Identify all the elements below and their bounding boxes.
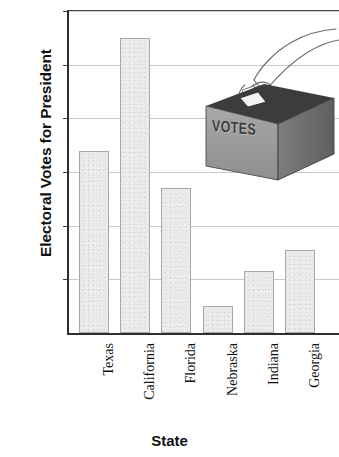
gridline: [69, 172, 339, 173]
x-axis-label-texas: Texas: [101, 343, 117, 435]
y-axis-tick: [63, 172, 69, 173]
x-axis-label-indiana: Indiana: [266, 343, 282, 435]
bar-california: [120, 38, 150, 333]
x-axis-label-georgia: Georgia: [307, 343, 323, 435]
ballot-box-votes-label: VOTES: [212, 117, 256, 139]
x-axis-label-florida: Florida: [183, 343, 199, 435]
bar-texas: [79, 151, 109, 333]
y-axis-tick: [63, 226, 69, 227]
y-axis-tick: [63, 11, 69, 12]
x-axis-label-nebraska: Nebraska: [225, 343, 241, 435]
y-axis-tick: [63, 65, 69, 66]
bar-florida: [161, 188, 191, 333]
bar-georgia: [285, 250, 315, 333]
y-axis-tick: [63, 279, 69, 280]
plot-area: [67, 10, 339, 335]
bar-nebraska: [203, 306, 233, 333]
x-axis-line: [67, 333, 339, 335]
electoral-votes-bar-chart: Electoral Votes for President 0102030405…: [0, 0, 339, 457]
x-axis-title: State: [0, 432, 339, 449]
gridline: [69, 226, 339, 227]
bar-indiana: [244, 271, 274, 333]
y-axis-title: Electoral Votes for President: [33, 3, 59, 303]
gridline: [69, 11, 339, 12]
gridline: [69, 118, 339, 119]
x-axis-label-california: California: [142, 343, 158, 435]
gridline: [69, 65, 339, 66]
y-axis-tick: [63, 118, 69, 119]
